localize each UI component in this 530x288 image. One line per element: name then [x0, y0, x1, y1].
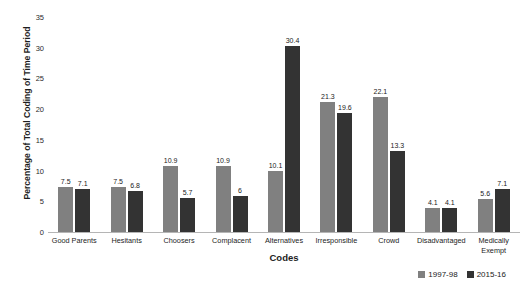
bar-rect[interactable] [373, 97, 388, 233]
bar-group: 5.67.1 [468, 18, 520, 233]
bar-rect[interactable] [337, 113, 352, 233]
y-axis-tick: 20 [26, 106, 44, 114]
bar-group: 10.95.7 [153, 18, 205, 233]
legend-swatch-icon [418, 271, 425, 278]
bar-group: 7.56.8 [100, 18, 152, 233]
bar-item[interactable]: 5.6 [478, 18, 493, 233]
bar-rect[interactable] [425, 208, 440, 233]
bar-rect[interactable] [111, 187, 126, 233]
bar-value-label: 7.1 [497, 180, 507, 187]
bar-item[interactable]: 4.1 [425, 18, 440, 233]
bar-item[interactable]: 22.1 [373, 18, 388, 233]
y-axis-tick: 35 [26, 14, 44, 22]
legend-label: 2015-16 [477, 270, 506, 279]
bar-item[interactable]: 4.1 [442, 18, 457, 233]
legend-entry[interactable]: 2015-16 [467, 270, 506, 279]
bar-rect[interactable] [390, 151, 405, 233]
bar-item[interactable]: 10.9 [163, 18, 178, 233]
plot-area: 05101520253035 7.57.17.56.810.95.710.961… [48, 18, 520, 233]
x-axis-line [48, 232, 520, 233]
bar-value-label: 10.1 [269, 162, 283, 169]
bar-value-label: 5.7 [183, 189, 193, 196]
bar-rect[interactable] [495, 189, 510, 233]
legend-swatch-icon [467, 271, 474, 278]
legend-entry[interactable]: 1997-98 [418, 270, 457, 279]
bar-item[interactable]: 13.3 [390, 18, 405, 233]
bar-item[interactable]: 21.3 [320, 18, 335, 233]
legend-label: 1997-98 [428, 270, 457, 279]
bar-item[interactable]: 7.5 [111, 18, 126, 233]
bar-value-label: 30.4 [286, 37, 300, 44]
y-axis-tick: 25 [26, 76, 44, 84]
bar-value-label: 13.3 [391, 142, 405, 149]
bar-value-label: 6.8 [130, 182, 140, 189]
bar-value-label: 7.5 [113, 178, 123, 185]
bar-rect[interactable] [320, 102, 335, 233]
bar-item[interactable]: 10.1 [268, 18, 283, 233]
bar-group: 10.96 [205, 18, 257, 233]
bar-item[interactable]: 10.9 [216, 18, 231, 233]
bar-value-label: 5.6 [480, 190, 490, 197]
bar-item[interactable]: 7.1 [495, 18, 510, 233]
y-axis-tick: 30 [26, 45, 44, 53]
bar-rect[interactable] [128, 191, 143, 233]
bar-value-label: 10.9 [216, 157, 230, 164]
bar-value-label: 4.1 [445, 199, 455, 206]
bar-item[interactable]: 7.5 [58, 18, 73, 233]
bar-rect[interactable] [180, 198, 195, 233]
y-axis-tick: 0 [26, 229, 44, 237]
bar-item[interactable]: 7.1 [75, 18, 90, 233]
bar-rect[interactable] [233, 196, 248, 233]
bar-group: 7.57.1 [48, 18, 100, 233]
bar-item[interactable]: 5.7 [180, 18, 195, 233]
bar-value-label: 19.6 [338, 104, 352, 111]
bar-group: 4.14.1 [415, 18, 467, 233]
bar-rect[interactable] [216, 166, 231, 233]
bar-rect[interactable] [58, 187, 73, 233]
bar-rect[interactable] [163, 166, 178, 233]
bar-group: 10.130.4 [258, 18, 310, 233]
bar-rect[interactable] [285, 46, 300, 233]
y-axis-tick: 15 [26, 137, 44, 145]
bar-value-label: 10.9 [164, 157, 178, 164]
bar-value-label: 7.1 [78, 180, 88, 187]
bar-value-label: 6 [238, 187, 242, 194]
chart-legend: 1997-982015-16 [418, 270, 506, 279]
x-axis-title: Codes [48, 252, 520, 263]
bar-value-label: 22.1 [374, 88, 388, 95]
bar-chart-figure: Percentage of Total Coding of Time Perio… [0, 0, 530, 288]
bar-group: 22.113.3 [363, 18, 415, 233]
bar-item[interactable]: 6 [233, 18, 248, 233]
bar-group: 21.319.6 [310, 18, 362, 233]
bar-rect[interactable] [478, 199, 493, 233]
bar-item[interactable]: 6.8 [128, 18, 143, 233]
bar-groups: 7.57.17.56.810.95.710.9610.130.421.319.6… [48, 18, 520, 233]
y-axis-tick: 10 [26, 168, 44, 176]
bar-value-label: 4.1 [428, 199, 438, 206]
bar-item[interactable]: 30.4 [285, 18, 300, 233]
y-axis-tick: 5 [26, 199, 44, 207]
bar-rect[interactable] [442, 208, 457, 233]
bar-value-label: 21.3 [321, 93, 335, 100]
bar-rect[interactable] [268, 171, 283, 233]
bar-item[interactable]: 19.6 [337, 18, 352, 233]
bar-value-label: 7.5 [61, 178, 71, 185]
bar-rect[interactable] [75, 189, 90, 233]
